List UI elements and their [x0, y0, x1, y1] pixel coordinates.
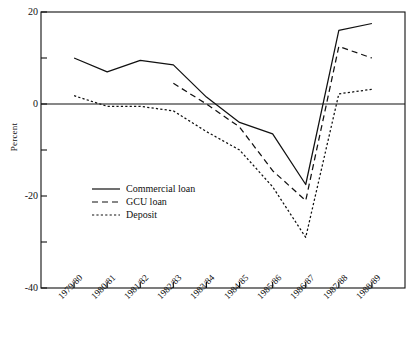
legend-label: GCU loan: [126, 196, 167, 207]
series-line-gcu-loan: [173, 47, 372, 201]
plot-frame: [41, 12, 405, 288]
legend-label: Deposit: [126, 209, 157, 220]
chart-legend: Commercial loan GCU loan Deposit: [92, 182, 242, 221]
legend-swatch-dotted: [92, 210, 120, 219]
line-chart: Percent 20 0 -20 -40 1979/801980/811981/…: [0, 0, 419, 337]
legend-item-gcu-loan: GCU loan: [92, 195, 242, 208]
legend-item-deposit: Deposit: [92, 208, 242, 221]
legend-swatch-solid: [92, 184, 120, 193]
legend-item-commercial-loan: Commercial loan: [92, 182, 242, 195]
legend-label: Commercial loan: [126, 183, 195, 194]
legend-swatch-dashed: [92, 197, 120, 206]
